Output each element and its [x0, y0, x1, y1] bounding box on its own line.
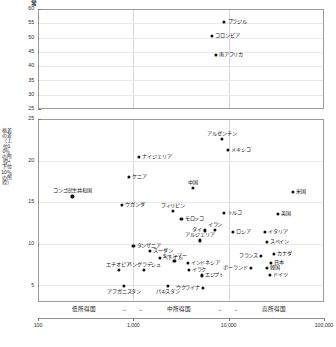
income-band-arrow: ← — [234, 307, 239, 312]
x-tick-mark — [324, 318, 325, 321]
data-point-label: 韓国 — [270, 265, 280, 270]
y-tick-label: 60 — [12, 6, 34, 11]
y-axis-title: 格差の差（上位10％の所得÷下位10％の所得） — [1, 128, 12, 303]
y-gridline — [39, 95, 323, 96]
data-point-label: 南アフリカ — [219, 52, 243, 57]
data-point-label: ウガンダ — [125, 202, 144, 207]
income-band-arrow: → — [121, 307, 126, 312]
x-axis-line — [38, 318, 324, 319]
data-point-label: アルゼンチン — [207, 131, 236, 136]
data-point-label: 英国 — [281, 211, 291, 216]
x-tick-label: 100,000 — [304, 323, 336, 328]
x-tick-label: 100 — [18, 323, 58, 328]
y-tick-mark — [38, 119, 41, 120]
y-tick-label: 55 — [12, 20, 34, 25]
y-gridline — [39, 66, 323, 67]
data-point-label: エジプト — [205, 273, 224, 278]
income-band-arrow: ← — [138, 307, 143, 312]
income-band-arrow: → — [217, 307, 222, 312]
y-tick-label: 30 — [12, 92, 34, 97]
y-tick-label: 35 — [12, 78, 34, 83]
y-tick-label: 40 — [12, 63, 34, 68]
x-tick-label: 10,000 — [209, 323, 249, 328]
y-gridline — [39, 52, 323, 53]
x-gridline — [133, 10, 134, 108]
data-point-label: イタリア — [268, 230, 287, 235]
y-tick-label: 5 — [12, 283, 34, 288]
x-tick-mark — [38, 318, 39, 321]
y-gridline — [39, 161, 323, 162]
x-tick-label: 1,000 — [113, 323, 153, 328]
data-point-label: バングラデシュ — [127, 261, 161, 266]
data-point-label: コンゴ民主共和国 — [53, 188, 92, 193]
x-gridline — [133, 120, 134, 301]
income-band-label: 高所得国 — [262, 307, 286, 313]
data-point-label: 米国 — [296, 190, 306, 195]
income-band-label: 低所得国 — [72, 307, 96, 313]
data-point-label: インドネシア — [191, 260, 220, 265]
scatter-chart-figure: 格差の差（上位10％の所得÷下位10％の所得） 常 25303540455055… — [0, 0, 336, 347]
data-point-label: スペイン — [270, 240, 289, 245]
data-point-label: 中国 — [188, 180, 198, 185]
x-gridline — [229, 10, 230, 108]
y-gridline — [39, 80, 323, 81]
data-point-label: ナイジェリア — [142, 155, 171, 160]
x-tick-mark — [133, 318, 134, 321]
data-point-label: ポーランド — [223, 265, 247, 270]
data-point-label: イラン — [208, 222, 223, 227]
data-point-label: ケニア — [132, 175, 147, 180]
data-point-label: カナダ — [277, 251, 292, 256]
y-tick-mark — [38, 109, 41, 110]
y-tick-label: 25 — [12, 116, 34, 121]
data-point-label: アルジェリア — [185, 232, 214, 237]
x-tick-mark — [229, 318, 230, 321]
data-point-label: ウクライナ — [176, 285, 200, 290]
data-point-label: アフガニスタン — [107, 289, 141, 294]
y-tick-label: 45 — [12, 49, 34, 54]
y-tick-label: 50 — [12, 35, 34, 40]
data-point-label: トルコ — [228, 210, 243, 215]
data-point-label: メキシコ — [231, 147, 250, 152]
income-band-label: 中所得国 — [167, 307, 191, 313]
data-point-label: モロッコ — [185, 216, 204, 221]
y-tick-label: 25 — [12, 106, 34, 111]
y-tick-label: 10 — [12, 241, 34, 246]
data-point-label: コロンビア — [215, 34, 239, 39]
y-tick-label: 15 — [12, 199, 34, 204]
data-point-label: ブラジル — [228, 19, 247, 24]
data-point-label: フランス — [239, 254, 258, 259]
data-point-label: フィリピン — [161, 202, 185, 207]
data-point-label: ドイツ — [273, 272, 288, 277]
y-tick-label: 20 — [12, 158, 34, 163]
y-tick-mark — [38, 9, 41, 10]
data-point-label: ミャンマー — [162, 253, 186, 258]
data-point-label: ロシア — [236, 230, 251, 235]
y-gridline — [39, 38, 323, 39]
y-gridline — [39, 23, 323, 24]
